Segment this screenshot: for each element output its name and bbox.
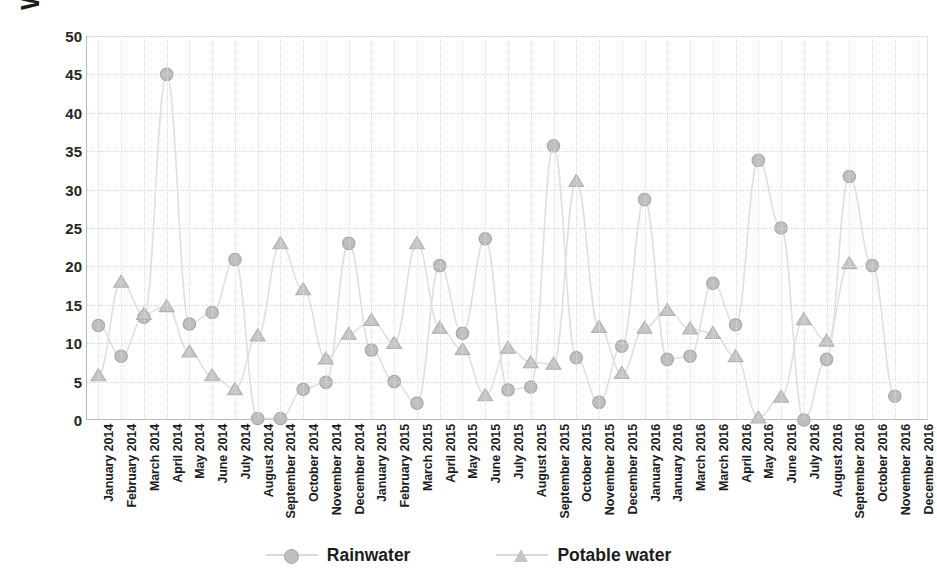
x-axis-tick-label: April 2015: [444, 424, 458, 483]
gridline-vertical: [781, 36, 782, 419]
gridline-vertical: [736, 36, 737, 419]
x-axis-tick-label: November 2014: [330, 424, 344, 515]
x-axis-tick-label: May 2016: [762, 424, 776, 479]
x-axis-tick-label: September 2014: [284, 424, 298, 519]
x-axis-tick-label: January 2016: [671, 424, 685, 502]
gridline-vertical: [462, 36, 463, 419]
gridline-vertical: [531, 36, 532, 419]
x-axis-tick-label: February 2014: [125, 424, 139, 507]
gridline-vertical: [690, 36, 691, 419]
x-axis-tick-label: June 2015: [489, 424, 503, 484]
y-axis-ticks: 05101520253035404550: [46, 0, 82, 580]
x-axis-tick-label: January 2015: [375, 424, 389, 502]
gridline-vertical: [417, 36, 418, 419]
gridline-vertical: [918, 36, 919, 419]
x-axis-tick-label: January 2014: [102, 424, 116, 502]
legend-item[interactable]: Potable water: [496, 545, 671, 566]
gridline-vertical: [599, 36, 600, 419]
x-axis-tick-label: August 2016: [831, 424, 845, 497]
water-consumption-chart: Water consumption (m³) 05101520253035404…: [0, 0, 937, 580]
x-axis-tick-label: December 2016: [922, 424, 936, 514]
x-axis-tick-label: September 2016: [853, 424, 867, 519]
legend-label: Rainwater: [327, 545, 411, 566]
x-axis-tick-label: April 2016: [740, 424, 754, 483]
legend-circle-icon: [266, 546, 318, 564]
gridline-vertical: [371, 36, 372, 419]
x-axis-tick-label: June 2016: [785, 424, 799, 484]
gridline-vertical: [508, 36, 509, 419]
gridline-vertical: [212, 36, 213, 419]
y-axis-tick-label: 20: [46, 258, 82, 275]
x-axis-tick-label: March 2014: [148, 424, 162, 491]
gridline-vertical: [349, 36, 350, 419]
legend-marker-circle: [284, 549, 299, 564]
gridline-vertical: [121, 36, 122, 419]
gridline-vertical: [440, 36, 441, 419]
gridline-vertical: [326, 36, 327, 419]
gridline-vertical: [235, 36, 236, 419]
gridline-vertical: [554, 36, 555, 419]
gridline-vertical: [895, 36, 896, 419]
x-axis-tick-label: August 2015: [535, 424, 549, 497]
gridline-vertical: [576, 36, 577, 419]
x-axis-tick-label: March 2016: [694, 424, 708, 491]
gridline-vertical: [189, 36, 190, 419]
y-axis-tick-label: 40: [46, 104, 82, 121]
x-axis-tick-label: March 2015: [421, 424, 435, 491]
gridline-vertical: [144, 36, 145, 419]
x-axis-tick-label: October 2016: [876, 424, 890, 502]
x-axis-tick-label: December 2014: [353, 424, 367, 514]
y-axis-title-container: Water consumption (m³): [0, 36, 46, 420]
x-axis-tick-label: September 2015: [558, 424, 572, 519]
x-axis-tick-label: July 2014: [239, 424, 253, 479]
x-axis-tick-label: October 2015: [580, 424, 594, 502]
y-axis-tick-label: 0: [46, 412, 82, 429]
gridline-vertical: [667, 36, 668, 419]
legend-marker-triangle: [514, 549, 528, 562]
x-axis-tick-label: March 2016: [717, 424, 731, 491]
y-axis-tick-label: 5: [46, 373, 82, 390]
x-axis-tick-label: November 2016: [899, 424, 913, 515]
gridline-vertical: [622, 36, 623, 419]
gridline-vertical: [98, 36, 99, 419]
y-axis-tick-label: 10: [46, 335, 82, 352]
x-axis-tick-label: February 2015: [398, 424, 412, 507]
y-axis-tick-label: 15: [46, 296, 82, 313]
x-axis-tick-label: May 2015: [466, 424, 480, 479]
gridline-vertical: [849, 36, 850, 419]
gridline-vertical: [394, 36, 395, 419]
gridline-vertical: [804, 36, 805, 419]
y-axis-tick-label: 35: [46, 143, 82, 160]
legend-item[interactable]: Rainwater: [266, 545, 411, 566]
x-axis-tick-label: November 2015: [603, 424, 617, 515]
gridline-vertical: [758, 36, 759, 419]
x-axis-tick-label: October 2014: [307, 424, 321, 502]
gridline-vertical: [872, 36, 873, 419]
x-axis-tick-label: August 2014: [262, 424, 276, 497]
legend-triangle-icon: [496, 546, 548, 564]
gridline-vertical: [303, 36, 304, 419]
legend-label: Potable water: [557, 545, 671, 566]
x-axis-tick-label: April 2014: [171, 424, 185, 483]
x-axis-tick-label: June 2014: [216, 424, 230, 484]
series-line: [98, 74, 894, 420]
x-axis-tick-label: July 2015: [512, 424, 526, 479]
x-axis-tick-label: May 2014: [193, 424, 207, 479]
gridline-vertical: [827, 36, 828, 419]
x-axis-labels: January 2014February 2014March 2014April…: [86, 424, 928, 534]
gridline-vertical: [258, 36, 259, 419]
x-axis-tick-label: January 2016: [649, 424, 663, 502]
gridline-vertical: [645, 36, 646, 419]
gridline-vertical: [167, 36, 168, 419]
gridline-vertical: [485, 36, 486, 419]
gridline-vertical: [713, 36, 714, 419]
x-axis-tick-label: December 2015: [626, 424, 640, 514]
y-axis-tick-label: 25: [46, 220, 82, 237]
y-axis-tick-label: 30: [46, 181, 82, 198]
chart-legend: RainwaterPotable water: [0, 538, 937, 572]
gridline-vertical: [280, 36, 281, 419]
y-axis-tick-label: 50: [46, 28, 82, 45]
plot-area: [86, 36, 928, 420]
y-axis-tick-label: 45: [46, 66, 82, 83]
x-axis-tick-label: July 2016: [808, 424, 822, 479]
